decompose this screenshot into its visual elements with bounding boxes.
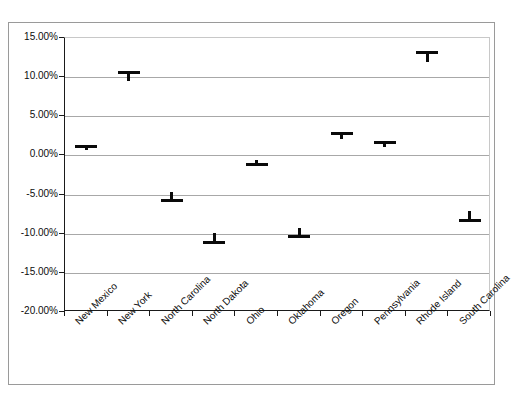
y-axis-tick-label: -15.00% — [21, 267, 58, 277]
marker-stem — [213, 233, 216, 242]
gridline — [65, 155, 489, 156]
x-axis-tick-mark — [490, 311, 491, 316]
marker-stem — [426, 53, 429, 62]
x-axis-tick-mark — [277, 311, 278, 316]
gridline — [65, 234, 489, 235]
y-axis-tick-mark — [59, 154, 64, 155]
y-axis-tick-label: -5.00% — [26, 189, 58, 199]
y-axis-labels: 15.00%10.00%5.00%0.00%-5.00%-10.00%-15.0… — [0, 0, 58, 412]
marker-stem — [383, 142, 386, 147]
x-axis-tick-mark — [192, 311, 193, 316]
y-axis-tick-mark — [59, 194, 64, 195]
y-axis-tick-label: 0.00% — [30, 149, 58, 159]
x-axis-tick-mark — [447, 311, 448, 316]
x-axis-tick-mark — [234, 311, 235, 316]
plot-area — [64, 37, 490, 311]
x-axis-tick-mark — [107, 311, 108, 316]
x-axis-tick-mark — [362, 311, 363, 316]
marker-stem — [298, 228, 301, 237]
y-axis-tick-mark — [59, 115, 64, 116]
gridline — [65, 195, 489, 196]
y-axis-tick-label: -20.00% — [21, 306, 58, 316]
marker-stem — [85, 146, 88, 150]
y-axis-tick-label: 10.00% — [24, 71, 58, 81]
y-axis-tick-mark — [59, 37, 64, 38]
marker-stem — [255, 160, 258, 164]
x-axis-tick-mark — [64, 311, 65, 316]
y-axis-tick-mark — [59, 272, 64, 273]
y-axis-tick-mark — [59, 76, 64, 77]
x-axis-tick-mark — [405, 311, 406, 316]
marker-stem — [340, 134, 343, 140]
marker-stem — [468, 211, 471, 220]
x-axis-tick-mark — [149, 311, 150, 316]
gridline — [65, 273, 489, 274]
y-axis-tick-mark — [59, 233, 64, 234]
y-axis-tick-label: -10.00% — [21, 228, 58, 238]
gridline — [65, 116, 489, 117]
marker-stem — [170, 192, 173, 200]
x-axis-tick-mark — [320, 311, 321, 316]
y-axis-tick-label: 15.00% — [24, 32, 58, 42]
y-axis-tick-label: 5.00% — [30, 110, 58, 120]
marker-stem — [127, 72, 130, 81]
